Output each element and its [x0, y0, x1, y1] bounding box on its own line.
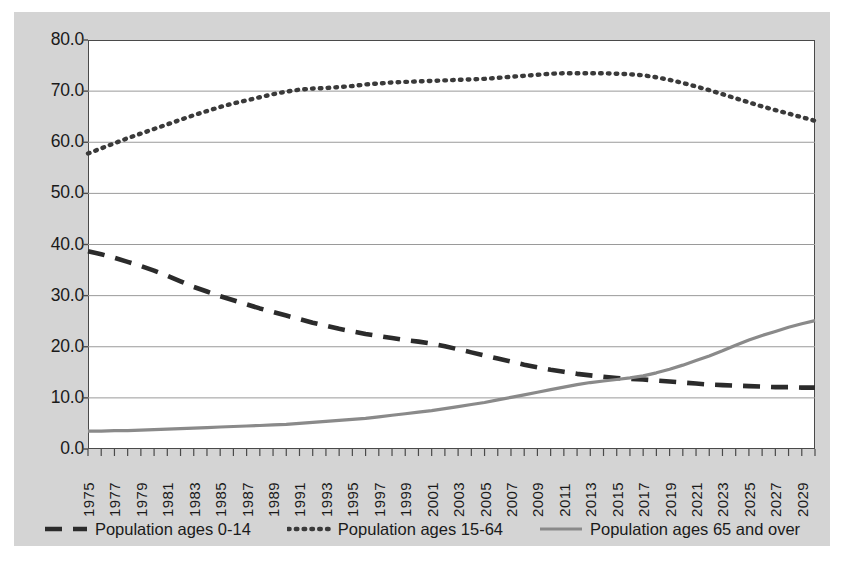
legend-item[interactable]: Population ages 15-64 [287, 520, 503, 539]
legend-item[interactable]: Population ages 0-14 [44, 520, 251, 539]
legend-swatch-dashed [44, 523, 88, 535]
legend-label: Population ages 0-14 [95, 520, 251, 539]
series-line [88, 321, 815, 431]
chart-container: 0.010.020.030.040.050.060.070.080.0 1975… [14, 12, 830, 546]
legend-label: Population ages 15-64 [338, 520, 503, 539]
series-line [88, 251, 815, 388]
legend-swatch-solid [539, 523, 583, 535]
legend-item[interactable]: Population ages 65 and over [539, 520, 800, 539]
chart-legend: Population ages 0-14Population ages 15-6… [14, 512, 830, 546]
x-axis-labels: 1975197719791981198319851987198919911993… [88, 455, 815, 517]
legend-label: Population ages 65 and over [590, 520, 800, 539]
series-line [88, 73, 815, 153]
legend-swatch-dotted [287, 523, 331, 535]
